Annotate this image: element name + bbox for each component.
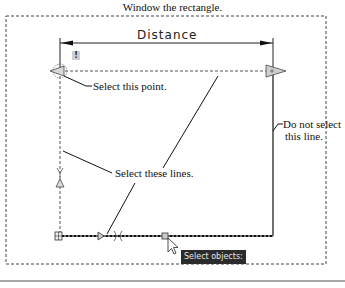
- dimension-arrow-left-icon: [61, 41, 73, 46]
- grip-triangle-icon[interactable]: [266, 65, 286, 77]
- mouse-cursor-icon: [168, 238, 178, 254]
- selection-window: [6, 16, 326, 264]
- warning-icon[interactable]: !: [72, 51, 80, 60]
- callout-select-point: Select this point.: [93, 80, 167, 92]
- sketch-canvas[interactable]: [0, 0, 345, 288]
- callout-do-not-select-2: this line.: [285, 130, 323, 142]
- leader-select-lines-top: [163, 76, 218, 168]
- callout-select-lines: Select these lines.: [115, 167, 194, 179]
- dimension-label[interactable]: Distance: [137, 28, 197, 42]
- leader-select-lines-left: [63, 151, 112, 173]
- grip-square-icon[interactable]: [162, 233, 168, 239]
- leader-select-point: [64, 76, 92, 86]
- leader-do-not-select: [273, 124, 283, 131]
- endpoint-square-icon[interactable]: [55, 232, 62, 240]
- command-tooltip: Select objects:: [181, 250, 246, 264]
- callout-do-not-select-1: Do not select: [283, 118, 341, 130]
- leader-select-lines-bottom: [107, 183, 135, 234]
- midpoint-triangle-icon: [98, 232, 104, 240]
- dimension-arrow-right-icon: [260, 41, 272, 46]
